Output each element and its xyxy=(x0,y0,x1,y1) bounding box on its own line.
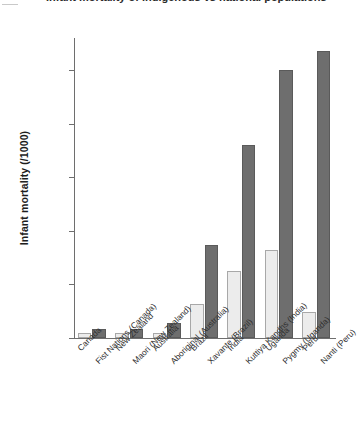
y-tick-mark xyxy=(69,177,74,178)
y-axis-label: Infant mortality (/1000) xyxy=(18,38,32,338)
bar-indigenous xyxy=(317,51,331,338)
plot-area: 050100150200250 xyxy=(74,38,336,338)
y-axis-line xyxy=(74,38,75,338)
x-axis-labels: CanadaFist Nations (Canada)New ZealandMa… xyxy=(0,340,345,442)
y-tick-mark xyxy=(69,231,74,232)
title-rule xyxy=(2,4,18,5)
chart-title-cropped: Infant mortality of indigenous vs nation… xyxy=(0,0,345,9)
y-tick-mark xyxy=(69,124,74,125)
y-tick-mark xyxy=(69,70,74,71)
page-title: Infant mortality of indigenous vs nation… xyxy=(46,0,327,3)
y-tick-mark xyxy=(69,284,74,285)
bar-indigenous xyxy=(279,70,293,338)
bar-indigenous xyxy=(242,145,256,338)
y-tick-mark xyxy=(69,338,74,339)
